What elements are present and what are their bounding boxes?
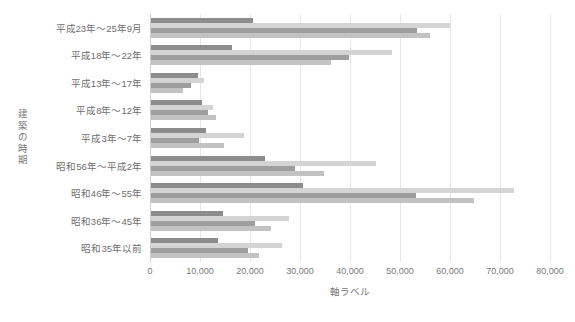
- category-axis-labels: 平成23年～25年9月平成18年～22年平成13年～17年平成8年～12年平成3…: [34, 14, 146, 262]
- category-label: 昭和36年～45年: [30, 214, 142, 228]
- x-axis-title: 軸ラベル: [150, 284, 550, 298]
- bar: [151, 226, 271, 231]
- category-label: 昭和56年～平成2年: [30, 159, 142, 173]
- gridline: [550, 14, 551, 262]
- x-tick-label: 30,000: [286, 266, 314, 276]
- bar: [151, 253, 259, 258]
- bar: [151, 60, 331, 65]
- bar: [151, 143, 224, 148]
- bar-chart: 建 築 の 時 期 平成23年～25年9月平成18年～22年平成13年～17年平…: [0, 0, 575, 322]
- category-label: 昭和35年以前: [30, 241, 142, 255]
- bar: [151, 115, 216, 120]
- category-label: 平成18年～22年: [30, 48, 142, 62]
- x-tick-label: 0: [147, 266, 152, 276]
- gridline: [400, 14, 401, 262]
- bar: [151, 88, 183, 93]
- category-label: 平成8年～12年: [30, 103, 142, 117]
- x-tick-label: 70,000: [486, 266, 514, 276]
- bar: [151, 198, 474, 203]
- x-tick-label: 60,000: [436, 266, 464, 276]
- category-label: 平成13年～17年: [30, 76, 142, 90]
- x-axis-tick-labels: 010,00020,00030,00040,00050,00060,00070,…: [150, 266, 550, 280]
- x-tick-label: 20,000: [236, 266, 264, 276]
- x-tick-label: 10,000: [186, 266, 214, 276]
- bar: [151, 33, 430, 38]
- x-tick-label: 50,000: [386, 266, 414, 276]
- x-tick-label: 40,000: [336, 266, 364, 276]
- gridline: [450, 14, 451, 262]
- x-tick-label: 80,000: [536, 266, 564, 276]
- category-label: 昭和46年～55年: [30, 186, 142, 200]
- gridline: [500, 14, 501, 262]
- category-label: 平成3年～7年: [30, 131, 142, 145]
- category-label: 平成23年～25年9月: [30, 21, 142, 35]
- bar: [151, 171, 324, 176]
- plot-area: [150, 14, 550, 262]
